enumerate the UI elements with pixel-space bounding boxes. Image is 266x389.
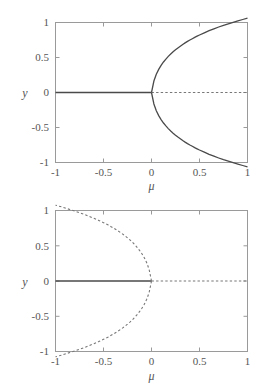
x-tick-label-bottom-panel: 1 [245,355,251,367]
x-tickmarks-top-bottom-panel [56,211,248,216]
x-tick-label-bottom-panel: 0 [149,355,155,367]
y-tick-label-top-panel: 1 [44,16,50,28]
bifurcation-figure: 1 0.5 0 -0.5 -1 -1 -0.5 0 0.5 1 y μ [0,0,266,389]
y-tick-label-top-panel: 0.5 [35,51,49,63]
x-tickmarks-bottom-bottom-panel [56,347,248,352]
y-tick-label-bottom-panel: 0 [44,275,50,287]
x-tick-label-bottom-panel: 0.5 [193,355,207,367]
plot-svg-bottom: 1 0.5 0 -0.5 -1 -1 -0.5 0 0.5 1 y μ [0,194,266,389]
y-axis-title-bottom-panel: y [21,275,28,289]
y-tick-label-top-panel: -0.5 [32,121,50,133]
y-tick-label-bottom-panel: -1 [40,345,49,357]
y-tick-label-top-panel: 0 [44,86,50,98]
curve-upper-branch-top [152,18,248,92]
x-tick-label-bottom-panel: -0.5 [95,355,113,367]
x-tick-label-top-panel: -1 [51,166,60,178]
x-tick-label-bottom-panel: -1 [51,355,60,367]
x-tick-label-top-panel: 0.5 [193,166,207,178]
y-axis-title-top-panel: y [21,86,28,100]
curve-lower-branch-bottom [56,281,152,357]
x-tick-label-top-panel: 0 [149,166,155,178]
curve-lower-branch-top [152,93,248,167]
x-tick-label-top-panel: 1 [245,166,251,178]
x-tick-label-top-panel: -0.5 [95,166,113,178]
plot-svg-top: 1 0.5 0 -0.5 -1 -1 -0.5 0 0.5 1 y μ [0,0,266,195]
chart-panel-bottom: 1 0.5 0 -0.5 -1 -1 -0.5 0 0.5 1 y μ [0,194,266,389]
x-axis-title-bottom-panel: μ [147,369,154,383]
curve-upper-branch-bottom [56,205,152,281]
y-tick-label-bottom-panel: -0.5 [32,310,50,322]
chart-panel-top: 1 0.5 0 -0.5 -1 -1 -0.5 0 0.5 1 y μ [0,0,266,195]
y-tick-label-bottom-panel: 0.5 [35,240,49,252]
y-tick-label-bottom-panel: 1 [44,204,50,216]
y-tick-label-top-panel: -1 [40,156,49,168]
x-axis-title-top-panel: μ [147,179,154,193]
